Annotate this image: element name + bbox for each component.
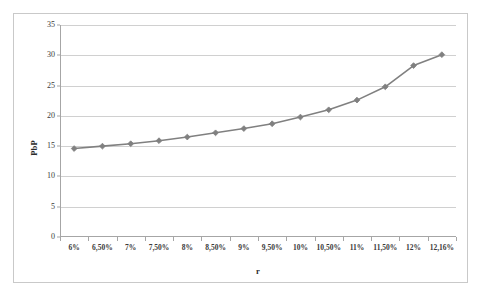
data-point [213, 130, 219, 136]
x-tick-label: 12% [406, 244, 421, 252]
x-tick-mark [201, 237, 202, 241]
data-point [326, 107, 332, 113]
x-tick-mark [60, 237, 61, 241]
x-tick-mark [286, 237, 287, 241]
data-point [354, 97, 360, 103]
x-tick-mark [456, 237, 457, 241]
x-tick-mark [145, 237, 146, 241]
y-tick-label: 30 [47, 51, 55, 59]
data-point [71, 146, 77, 152]
x-tick-label: 11% [350, 244, 365, 252]
y-tick-label: 5 [51, 203, 55, 211]
data-point [298, 114, 304, 120]
x-tick-label: 11,50% [373, 244, 397, 252]
x-tick-label: 7% [125, 244, 136, 252]
x-tick-mark [315, 237, 316, 241]
x-tick-label: 8,50% [205, 244, 226, 252]
x-tick-mark [117, 237, 118, 241]
x-tick-label: 8% [182, 244, 193, 252]
x-tick-label: 10% [293, 244, 308, 252]
x-tick-mark [173, 237, 174, 241]
data-point [156, 138, 162, 144]
x-tick-mark [258, 237, 259, 241]
y-tick-label: 25 [47, 82, 55, 90]
x-tick-mark [343, 237, 344, 241]
series-pbp [60, 25, 456, 237]
data-point [439, 52, 445, 58]
x-tick-mark [399, 237, 400, 241]
x-tick-label: 10,50% [317, 244, 341, 252]
x-tick-label: 6,50% [92, 244, 113, 252]
data-point [241, 126, 247, 132]
y-axis-title: PbP [29, 140, 39, 156]
x-tick-label: 7,50% [149, 244, 170, 252]
series-line [74, 55, 442, 149]
x-tick-mark [230, 237, 231, 241]
y-tick-label: 15 [47, 142, 55, 150]
y-tick-label: 10 [47, 172, 55, 180]
plot-area: 05101520253035 6%6,50%7%7,50%8%8,50%9%9,… [60, 25, 456, 237]
x-tick-label: 12,16% [430, 244, 454, 252]
x-tick-mark [88, 237, 89, 241]
y-tick-label: 35 [47, 21, 55, 29]
data-point [100, 143, 106, 149]
x-tick-label: 9% [238, 244, 249, 252]
y-tick-label: 20 [47, 112, 55, 120]
series-markers [71, 52, 445, 152]
x-tick-mark [371, 237, 372, 241]
data-point [184, 134, 190, 140]
chart-frame: PbP 05101520253035 6%6,50%7%7,50%8%8,50%… [13, 13, 468, 283]
x-tick-label: 6% [69, 244, 80, 252]
x-tick-label: 9,50% [262, 244, 283, 252]
x-tick-mark [428, 237, 429, 241]
x-axis-title: r [60, 266, 456, 276]
data-point [128, 141, 134, 147]
data-point [269, 121, 275, 127]
y-tick-label: 0 [51, 233, 55, 241]
